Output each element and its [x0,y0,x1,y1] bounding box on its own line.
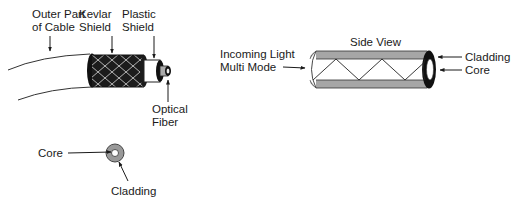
tube-left-end [312,51,317,88]
optical-fiber-label-line2: Fiber [152,116,178,128]
side-core-label: Core [465,64,490,76]
outer-part-label: Outer Part [32,8,86,20]
core-face [427,59,434,80]
optical-fiber-label: Optical [152,103,188,115]
incoming-light-label: Incoming Light [220,48,296,60]
incoming-light-label-line2: Multi Mode [220,61,276,73]
kevlar-shield-label: Kevlar [79,8,112,20]
cladding-bottom [316,80,427,88]
side-cladding-label: Cladding [465,51,510,63]
side-view-title: Side View [350,36,402,48]
outer-sheath-top [8,54,90,70]
incoming-light-arrow [283,67,305,68]
plastic-shield-label: Plastic [122,8,156,20]
fiber-optic-diagram: Outer Part of Cable Kevlar Shield Plasti… [0,0,515,203]
cross-cladding-arrow [119,162,128,181]
cross-core-arrow [68,152,111,153]
outer-sheath-bottom [18,87,92,100]
kevlar-braid [92,55,144,87]
light-path [313,59,428,80]
core-circle [112,150,119,157]
outer-part-label-line2: of Cable [32,21,75,33]
cable-illustration: Outer Part of Cable Kevlar Shield Plasti… [8,8,188,128]
side-view: Side View Incoming Light Multi Mode Clad… [220,36,510,89]
plastic-shield-label-line2: Shield [122,21,154,33]
kevlar-shield-label-line2: Shield [79,21,111,33]
cross-section: Core Cladding [38,144,156,197]
cross-cladding-label: Cladding [111,185,156,197]
cladding-top [316,51,427,59]
cross-core-label: Core [38,147,63,159]
